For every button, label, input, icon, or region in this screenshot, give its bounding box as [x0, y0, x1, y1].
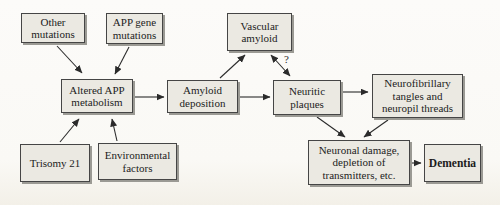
node-neuronal-damage: Neuronal damage, depletion of transmitte… [308, 140, 410, 185]
node-dementia: Dementia [424, 144, 481, 182]
amyloid-cascade-diagram: Other mutations APP gene mutations Vascu… [0, 0, 500, 205]
node-amyloid-deposition: Amyloid deposition [167, 80, 238, 113]
node-environmental-factors: Environmental factors [98, 143, 177, 180]
node-app-gene-mutations: APP gene mutations [106, 13, 163, 44]
node-vascular-amyloid: Vascular amyloid [227, 13, 292, 51]
node-trisomy-21: Trisomy 21 [20, 144, 90, 182]
edge-neurofibrillary-to-neuronal-damage [364, 120, 388, 137]
edge-trisomy-21-to-altered-app [60, 119, 79, 142]
edge-environmental-factors-to-altered-app [112, 119, 117, 141]
edge-other-mutations-to-altered-app [57, 46, 82, 73]
edge-app-gene-mutations-to-altered-app [115, 47, 129, 74]
edge-neuritic-plaques-to-neuronal-damage [317, 117, 345, 137]
node-other-mutations: Other mutations [21, 13, 85, 43]
question-mark-label: ? [284, 53, 289, 65]
node-neurofibrillary-tangles: Neurofibrillary tangles and neuropil thr… [372, 74, 463, 118]
node-altered-app-metabolism: Altered APP metabolism [61, 79, 133, 113]
node-neuritic-plaques: Neuritic plaques [273, 80, 341, 115]
edge-amyloid-deposition-to-vascular-amyloid [220, 55, 245, 78]
